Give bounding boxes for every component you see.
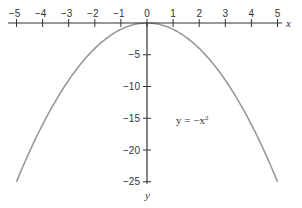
- y-tick-label: −25: [123, 176, 140, 187]
- x-tick-label: −4: [35, 8, 47, 19]
- y-tick-label: −5: [129, 49, 141, 60]
- x-tick-label: −1: [113, 8, 125, 19]
- axis-labels: x y y = −x2: [144, 17, 291, 201]
- axes: −5−4−3−2−1012345−5−10−15−20−25: [8, 8, 282, 187]
- x-tick-label: 2: [196, 8, 202, 19]
- x-tick-label: −2: [87, 8, 99, 19]
- y-tick-label: −20: [123, 145, 140, 156]
- parabola-chart: −5−4−3−2−1012345−5−10−15−20−25 x y y = −…: [0, 0, 302, 208]
- x-tick-label: 5: [275, 8, 281, 19]
- equation-annotation: y = −x2: [176, 114, 209, 126]
- y-tick-label: −15: [123, 113, 140, 124]
- x-axis-label: x: [285, 17, 291, 29]
- y-axis-label: y: [144, 189, 150, 201]
- x-tick-label: −5: [9, 8, 21, 19]
- y-tick-label: −10: [123, 81, 140, 92]
- x-tick-label: 3: [223, 8, 229, 19]
- x-tick-label: 4: [249, 8, 255, 19]
- equation-text: y = −x: [176, 114, 205, 126]
- x-tick-label: −3: [61, 8, 73, 19]
- x-tick-label: 0: [144, 8, 150, 19]
- x-tick-label: 1: [170, 8, 176, 19]
- equation-exponent: 2: [205, 114, 209, 122]
